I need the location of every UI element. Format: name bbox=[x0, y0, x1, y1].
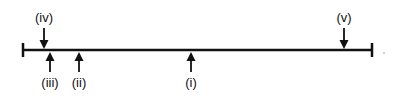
arrow-up-icon-ii bbox=[75, 52, 84, 72]
arrow-up-icon-i bbox=[187, 52, 196, 72]
arrow-up-icon-iii bbox=[46, 52, 55, 72]
label-ii: (ii) bbox=[72, 76, 86, 90]
arrow-down-icon-v bbox=[340, 28, 349, 49]
label-iii: (iii) bbox=[41, 76, 58, 90]
label-i: (i) bbox=[185, 76, 197, 90]
label-iv: (iv) bbox=[35, 11, 53, 25]
arrow-down-icon-iv bbox=[40, 28, 49, 49]
label-v: (v) bbox=[336, 11, 351, 25]
stray-dot bbox=[383, 52, 385, 54]
number-line-diagram: (iv) (v) (iii) (ii) (i) bbox=[0, 0, 393, 99]
